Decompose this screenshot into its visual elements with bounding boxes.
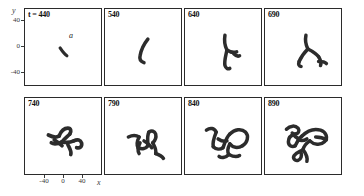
y-axis-tick-40: 40 [4,16,20,24]
structure-t440 [25,9,101,85]
figure-panel-grid: y 40 0 -40 t = 440 a 540 640 690 [0,0,364,196]
y-axis-tick-neg40: -40 [2,68,20,76]
x-axis-tick-0: 0 [53,177,73,185]
panel-t890: 890 [264,97,342,175]
panel-t440: t = 440 a [24,8,102,86]
panel-t640: 640 [184,8,262,86]
panel-t690: 690 [264,8,342,86]
y-axis-label: y [12,6,16,15]
panel-t840: 840 [184,97,262,175]
panel-t540: 540 [104,8,182,86]
structure-t890 [265,98,341,174]
panel-t740: 740 [24,97,102,175]
structure-t540 [105,9,181,85]
x-axis-tick-neg40: -40 [34,177,54,185]
x-axis-label: x [97,178,101,187]
structure-t690 [265,9,341,85]
structure-t740 [25,98,101,174]
x-axis-tick-40: 40 [72,177,92,185]
structure-t840 [185,98,261,174]
y-axis-tick-0: 0 [4,42,20,50]
structure-t640 [185,9,261,85]
panel-t790: 790 [104,97,182,175]
structure-t790 [105,98,181,174]
